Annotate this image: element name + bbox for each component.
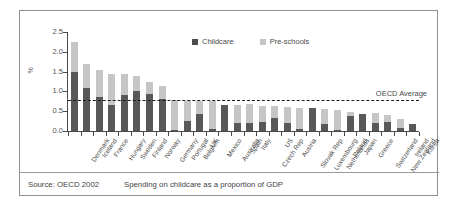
bar-column [108,74,115,131]
y-tick-label: 2.0 [41,48,63,56]
x-tick-mark [369,132,370,136]
x-tick-mark [193,132,194,136]
y-axis-tick-labels: 0.00.51.01.52.02.5 [35,11,63,197]
x-tick-mark [269,132,270,136]
bar-segment-preschools [284,107,291,123]
x-category-label: Greece [376,137,394,159]
x-tick-mark [331,132,332,136]
x-tick-mark [181,132,182,136]
x-tick-mark [93,132,94,136]
bar-segment-preschools [234,105,241,123]
y-tick-mark [63,91,67,92]
bar-column [146,82,153,131]
y-tick-label: 0.0 [41,127,63,135]
bar-segment-childcare [359,114,366,131]
bar-segment-preschools [146,82,153,94]
x-tick-mark [168,132,169,136]
bar-segment-childcare [108,105,115,131]
x-tick-mark [68,132,69,136]
legend-swatch-icon [192,39,198,45]
bar-series-group [68,32,419,131]
x-tick-mark [206,132,207,136]
x-axis-category-labels: DenmarkIcelandFranceHungarySwedenFinland… [68,137,419,183]
y-tick-label: 1.0 [41,87,63,95]
bar-segment-childcare [83,88,90,131]
bar-column [271,106,278,131]
bar-segment-preschools [334,110,341,131]
plot-area: % 0.00.51.01.52.02.5 OECD Average Childc… [20,11,439,197]
bar-segment-childcare [221,105,228,131]
x-tick-mark [344,132,345,136]
bar-segment-childcare [334,130,341,131]
legend-label-preschools: Pre-schools [270,37,310,46]
oecd-average-label: OECD Average [376,89,427,98]
bar-segment-childcare [347,116,354,131]
y-tick-label: 1.5 [41,68,63,76]
chart-caption: Spending on childcare as a proportion of… [124,180,283,189]
x-tick-mark [118,132,119,136]
bar-column [184,101,191,131]
bar-segment-childcare [321,124,328,131]
bar-column [334,110,341,131]
bar-segment-childcare [209,129,216,131]
bar-column [359,114,366,131]
bar-column [171,100,178,131]
legend-swatch-icon [260,39,266,45]
x-axis-ticks [68,132,419,136]
chart-legend: Childcare Pre-schools [192,37,309,46]
x-tick-mark [106,132,107,136]
bar-column [159,86,166,131]
bar-segment-preschools [184,101,191,122]
bar-segment-childcare [71,72,78,131]
bar-column [309,108,316,131]
x-tick-mark [281,132,282,136]
x-tick-mark [143,132,144,136]
bar-column [246,104,253,131]
bar-segment-preschools [372,113,379,123]
bar-column [372,113,379,131]
bar-segment-preschools [209,101,216,128]
bar-segment-preschools [83,64,90,88]
x-tick-mark [244,132,245,136]
bar-segment-preschools [159,86,166,99]
bar-segment-preschools [196,101,203,114]
bar-column [296,108,303,131]
x-tick-mark [156,132,157,136]
bar-column [209,101,216,131]
bar-column [321,109,328,131]
bar-column [284,107,291,131]
bar-segment-preschools [96,70,103,97]
bar-segment-preschools [259,106,266,122]
bar-segment-preschools [71,42,78,72]
x-category-label: Mexico [225,137,242,158]
bar-column [397,119,404,131]
bar-column [384,115,391,131]
y-tick-mark [63,111,67,112]
bar-segment-childcare [397,128,404,131]
bar-segment-childcare [184,121,191,131]
y-tick-mark [63,32,67,33]
bar-segment-childcare [296,129,303,131]
bar-segment-childcare [384,122,391,131]
legend-label-childcare: Childcare [202,37,234,46]
bar-segment-preschools [321,109,328,124]
bar-segment-childcare [259,122,266,131]
bar-column [121,74,128,131]
bar-column [196,101,203,131]
bar-segment-childcare [196,114,203,131]
bar-segment-preschools [246,104,253,123]
bar-segment-preschools [171,100,178,130]
bar-column [409,124,416,132]
bar-segment-preschools [296,108,303,129]
y-tick-label: 0.5 [41,107,63,115]
x-tick-mark [131,132,132,136]
source-note: Source: OECD 2002 [28,180,99,189]
bar-segment-childcare [246,123,253,131]
x-tick-mark [406,132,407,136]
bar-segment-childcare [271,118,278,131]
bar-segment-preschools [121,74,128,95]
bar-segment-childcare [372,123,379,131]
bar-segment-preschools [133,76,140,91]
footer-divider [20,172,439,173]
bar-segment-preschools [397,119,404,128]
